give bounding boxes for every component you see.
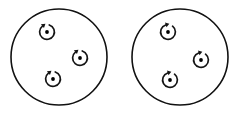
left-domain — [11, 9, 107, 105]
right-domain — [132, 9, 228, 105]
right-domain-boundary — [132, 9, 228, 105]
right-vortex-top-core-dot — [166, 30, 170, 34]
left-vortex-right-core-dot — [78, 56, 82, 60]
left-vortex-bottom-core-dot — [51, 77, 55, 81]
vortex-diagram — [0, 0, 239, 116]
right-vortex-right-core-dot — [199, 58, 203, 62]
left-domain-boundary — [11, 9, 107, 105]
left-vortex-top-core-dot — [45, 30, 49, 34]
figure-canvas — [0, 0, 239, 116]
right-vortex-bottom-core-dot — [168, 78, 172, 82]
